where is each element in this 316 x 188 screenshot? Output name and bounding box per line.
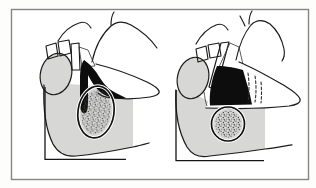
condyle-stipple [215,111,241,138]
tmj-two-panel-figure [0,0,316,188]
condyle [212,107,245,141]
diagram-canvas [0,0,316,188]
